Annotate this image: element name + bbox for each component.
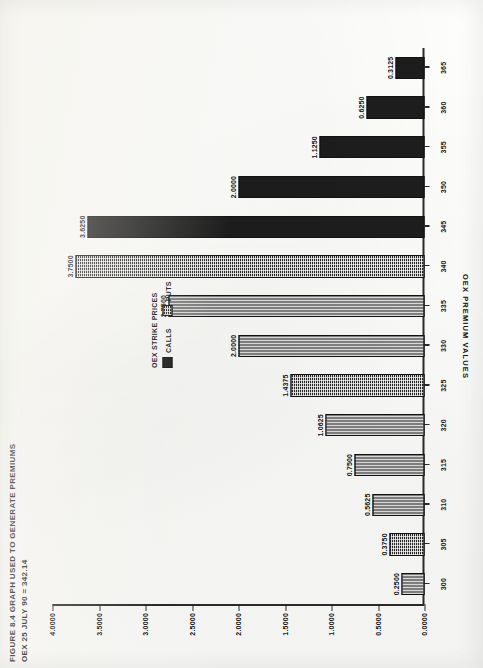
value-axis-tick <box>378 604 379 611</box>
category-axis-tick <box>423 464 429 465</box>
category-axis-tick <box>423 583 429 584</box>
category-axis-tick <box>423 265 429 266</box>
bar-value-label: 1.0625 <box>316 414 323 436</box>
value-axis-tick <box>285 604 286 611</box>
category-axis-label-355: 355 <box>439 141 446 153</box>
value-axis-tick <box>192 604 193 611</box>
category-axis-label-360: 360 <box>439 101 446 113</box>
bar-value-label: 2.0000 <box>229 176 236 198</box>
bar-335: 2.7500 <box>168 295 424 317</box>
category-axis-label-335: 335 <box>439 300 446 312</box>
category-axis-tick <box>423 424 429 425</box>
calls-swatch-icon <box>162 357 172 368</box>
bar-value-label: 0.7500 <box>345 454 352 476</box>
category-axis-label-320: 320 <box>439 419 446 431</box>
value-axis-tick-label: 3.0000 <box>142 613 149 636</box>
legend-label-calls: CALLS <box>164 328 171 353</box>
value-axis-tick <box>52 604 53 611</box>
bar-value-label: 0.2500 <box>392 573 399 595</box>
category-axis-label-345: 345 <box>439 221 446 233</box>
category-axis-tick <box>423 66 429 67</box>
category-axis-tick <box>423 106 429 107</box>
value-axis-tick-label: 4.0000 <box>49 613 56 636</box>
value-axis-tick-label: 2.0000 <box>235 613 242 636</box>
bar-value-label: 0.3125 <box>386 57 393 79</box>
bar-320: 1.0625 <box>325 414 424 436</box>
category-axis-label-300: 300 <box>439 578 446 590</box>
legend-item-calls: CALLS <box>162 328 172 368</box>
bar-value-label: 0.5625 <box>363 494 370 516</box>
category-axis-label-305: 305 <box>439 538 446 550</box>
figure-caption-line-2: OEX 25 JULY 90 = 342.14 <box>19 559 28 662</box>
bar-345: 3.6250 <box>87 216 424 238</box>
value-axis-tick-label: 1.5000 <box>281 613 288 636</box>
value-axis-tick <box>145 604 146 611</box>
bar-305: 0.3750 <box>389 533 424 555</box>
bar-value-label: 3.7500 <box>66 255 73 277</box>
category-axis-tick <box>423 543 429 544</box>
category-axis-label-350: 350 <box>439 181 446 193</box>
category-axis-tick <box>423 186 429 187</box>
category-axis-tick <box>423 305 429 306</box>
value-axis-title: OEX PREMIUM VALUES <box>460 48 469 604</box>
figure-caption-line-1: FIGURE 8.4 GRAPH USED TO GENERATE PREMIU… <box>7 444 16 662</box>
value-axis-tick <box>424 604 425 611</box>
value-axis-tick-label: 3.5000 <box>95 613 102 636</box>
bar-value-label: 1.1250 <box>310 136 317 158</box>
value-axis-tick-label: 2.5000 <box>188 613 195 636</box>
legend-label-puts: PUTS <box>164 281 171 301</box>
bar-330: 2.0000 <box>238 335 424 357</box>
legend-title: OEX STRIKE PRICES <box>150 281 157 368</box>
bar-365: 0.3125 <box>395 57 424 79</box>
category-axis-tick <box>423 384 429 385</box>
bar-325: 1.4375 <box>290 374 424 396</box>
value-axis-tick <box>99 604 100 611</box>
bar-value-label: 0.3750 <box>380 533 387 555</box>
category-axis-tick <box>423 344 429 345</box>
category-axis-label-315: 315 <box>439 459 446 471</box>
category-axis-line <box>422 48 424 604</box>
bar-value-label: 1.4375 <box>281 374 288 396</box>
value-axis-tick <box>238 604 239 611</box>
bar-360: 0.6250 <box>366 96 424 118</box>
legend-item-puts: PUTS <box>162 281 172 316</box>
category-axis-tick <box>423 503 429 504</box>
value-axis-tick <box>331 604 332 611</box>
category-axis-label-310: 310 <box>439 499 446 511</box>
category-axis-label-325: 325 <box>439 379 446 391</box>
category-axis-label-365: 365 <box>439 62 446 74</box>
bar-value-label: 3.6250 <box>78 216 85 238</box>
bar-350: 2.0000 <box>238 176 424 198</box>
category-axis-label-330: 330 <box>439 340 446 352</box>
figure-canvas: FIGURE 8.4 GRAPH USED TO GENERATE PREMIU… <box>0 0 483 668</box>
category-axis-tick <box>423 146 429 147</box>
value-axis-tick-label: 0.0000 <box>421 613 428 636</box>
category-axis-label-340: 340 <box>439 260 446 272</box>
puts-swatch-icon <box>162 305 172 316</box>
bar-355: 1.1250 <box>319 136 424 158</box>
value-axis-tick-label: 1.0000 <box>328 613 335 636</box>
bar-310: 0.5625 <box>372 494 424 516</box>
bar-300: 0.2500 <box>401 573 424 595</box>
bar-340: 3.7500 <box>75 255 424 277</box>
legend: OEX STRIKE PRICES CALLS PUTS <box>150 281 172 368</box>
category-axis-tick <box>423 225 429 226</box>
value-axis-tick-label: 0.5000 <box>374 613 381 636</box>
figure-caption: FIGURE 8.4 GRAPH USED TO GENERATE PREMIU… <box>6 444 31 662</box>
bar-315: 0.7500 <box>354 454 424 476</box>
bar-chart-plot-area: 0.00000.50001.00001.50002.00002.50003.00… <box>52 48 424 604</box>
bar-value-label: 2.0000 <box>229 335 236 357</box>
bar-value-label: 0.6250 <box>357 96 364 118</box>
